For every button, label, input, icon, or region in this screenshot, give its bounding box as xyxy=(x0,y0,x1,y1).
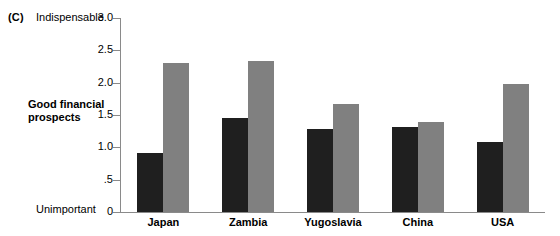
bar-group xyxy=(477,18,529,212)
bar-dark xyxy=(137,153,163,212)
y-axis-tick xyxy=(113,83,120,84)
bar-light xyxy=(503,84,529,212)
y-axis-tick-label: 1.5 xyxy=(69,108,113,120)
panel-letter: (C) xyxy=(8,11,24,23)
y-axis-tick xyxy=(113,50,120,51)
x-axis-category-label: Yugoslavia xyxy=(291,216,376,228)
bar-dark xyxy=(307,129,333,212)
x-axis-line xyxy=(120,212,545,213)
y-axis-tick-label: 2.5 xyxy=(69,43,113,55)
bar-group xyxy=(392,18,444,212)
bar-group xyxy=(222,18,274,212)
y-axis-tick-label: 2.0 xyxy=(69,76,113,88)
y-axis-tick xyxy=(113,180,120,181)
y-axis-tick xyxy=(113,212,120,213)
bar-dark xyxy=(477,142,503,212)
y-axis-tick xyxy=(113,18,120,19)
y-axis-tick xyxy=(113,147,120,148)
x-axis-category-label: USA xyxy=(460,216,545,228)
x-axis-category-label: Zambia xyxy=(206,216,291,228)
x-axis-category-label: Japan xyxy=(121,216,206,228)
y-axis-tick xyxy=(113,115,120,116)
bar-group xyxy=(137,18,189,212)
bar-group xyxy=(307,18,359,212)
y-axis-tick-label: .5 xyxy=(69,173,113,185)
chart-figure: (C) Indispensable Unimportant Good finan… xyxy=(0,0,560,236)
y-axis-tick-label: 1.0 xyxy=(69,140,113,152)
bar-light xyxy=(248,61,274,212)
bar-light xyxy=(333,104,359,212)
bar-dark xyxy=(222,118,248,212)
y-axis-tick-label: 0 xyxy=(69,205,113,217)
y-axis-tick-label: 3.0 xyxy=(69,11,113,23)
bar-dark xyxy=(392,127,418,212)
plot-area xyxy=(121,18,545,212)
bar-light xyxy=(418,122,444,212)
bar-light xyxy=(163,63,189,212)
x-axis-category-label: China xyxy=(375,216,460,228)
